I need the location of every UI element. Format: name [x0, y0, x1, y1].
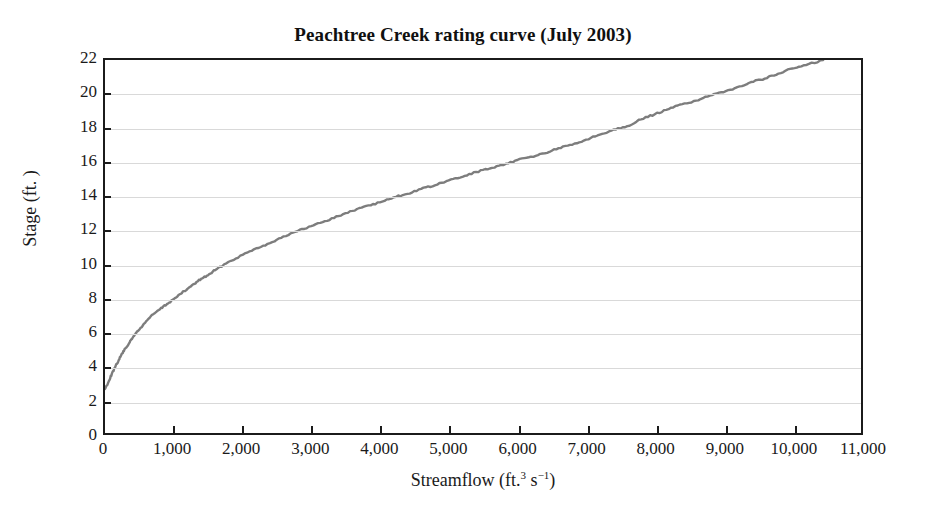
gridline-horizontal: [105, 129, 861, 130]
x-axis-title-mid: s: [526, 470, 538, 490]
plot-area: [103, 58, 863, 435]
x-axis-tick: [449, 426, 451, 433]
y-axis-tick-label: 16: [53, 152, 97, 169]
plot-inner: [105, 60, 861, 433]
y-axis-tick-labels: 0246810121416182022: [47, 58, 97, 435]
gridline-horizontal: [105, 197, 861, 198]
x-axis-title-exponent-inverse: −1: [538, 469, 550, 481]
x-axis-tick: [519, 426, 521, 433]
gridline-horizontal: [105, 368, 861, 369]
x-axis-tick-labels: 01,0002,0003,0004,0005,0006,0007,0008,00…: [103, 440, 863, 464]
x-axis-tick: [242, 426, 244, 433]
rating-curve-figure: Peachtree Creek rating curve (July 2003)…: [0, 0, 926, 521]
gridline-horizontal: [105, 231, 861, 232]
y-axis-tick: [105, 230, 111, 232]
rating-curve-line: [105, 60, 861, 433]
y-axis-tick-label: 20: [53, 83, 97, 100]
y-axis-tick-label: 8: [53, 289, 97, 306]
gridline-horizontal: [105, 403, 861, 404]
y-axis-tick: [105, 265, 111, 267]
y-axis-tick-label: 18: [53, 118, 97, 135]
y-axis-tick: [105, 299, 111, 301]
x-axis-tick: [726, 426, 728, 433]
y-axis-tick-label: 22: [53, 49, 97, 66]
y-axis-tick: [105, 333, 111, 335]
y-axis-tick: [105, 93, 111, 95]
gridline-horizontal: [105, 334, 861, 335]
y-axis-tick-label: 2: [53, 392, 97, 409]
y-axis-tick: [105, 402, 111, 404]
y-axis-tick-label: 14: [53, 186, 97, 203]
y-axis-tick: [105, 162, 111, 164]
x-axis-tick: [657, 426, 659, 433]
series-line-rating-curve: [105, 60, 823, 389]
y-axis-tick: [105, 196, 111, 198]
x-axis-title-text: Streamflow (ft.: [411, 470, 521, 490]
gridline-horizontal: [105, 94, 861, 95]
x-axis-tick: [380, 426, 382, 433]
gridline-horizontal: [105, 163, 861, 164]
y-axis-tick-label: 4: [53, 357, 97, 374]
y-axis-tick-label: 10: [53, 255, 97, 272]
y-axis-tick: [105, 128, 111, 130]
y-axis-tick: [105, 367, 111, 369]
x-axis-title: Streamflow (ft.3 s−1): [103, 470, 863, 491]
x-axis-title-close-paren: ): [549, 470, 555, 490]
x-axis-tick: [795, 426, 797, 433]
gridline-horizontal: [105, 300, 861, 301]
x-axis-tick-label: 11,000: [818, 440, 908, 457]
y-axis-title: Stage (ft. ): [20, 119, 41, 299]
y-axis-tick-label: 6: [53, 323, 97, 340]
gridline-horizontal: [105, 266, 861, 267]
x-axis-tick: [173, 426, 175, 433]
x-axis-tick: [588, 426, 590, 433]
chart-title: Peachtree Creek rating curve (July 2003): [0, 24, 926, 46]
x-axis-tick: [311, 426, 313, 433]
y-axis-tick-label: 12: [53, 220, 97, 237]
